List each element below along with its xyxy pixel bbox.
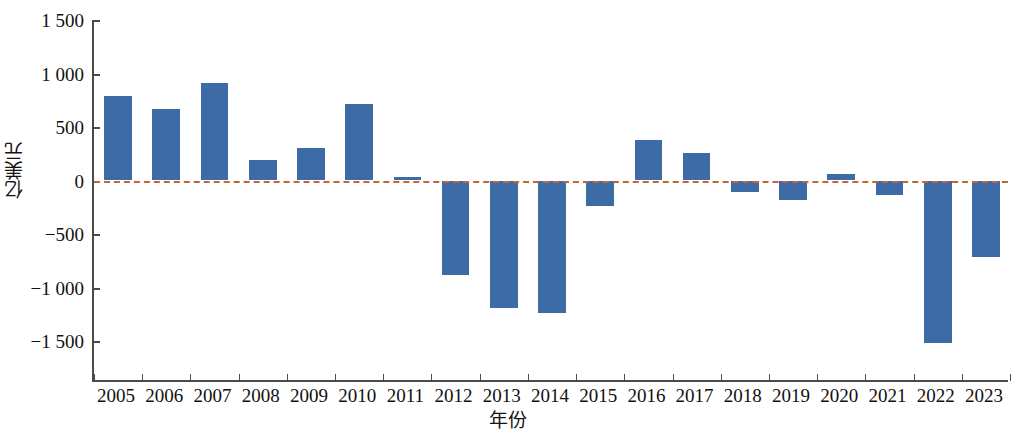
bar — [442, 181, 470, 276]
bar — [249, 160, 277, 180]
bar — [538, 181, 566, 314]
bar — [104, 96, 132, 181]
bar — [779, 181, 807, 201]
y-tick-label: −1 000 — [20, 279, 84, 298]
x-tick-label: 2017 — [671, 384, 719, 408]
x-tick-label: 2011 — [381, 384, 429, 408]
y-tick-label: −1 500 — [20, 332, 84, 351]
bar — [827, 174, 855, 181]
zero-reference-line — [94, 181, 1008, 183]
bar — [876, 181, 904, 196]
bar — [683, 153, 711, 181]
x-tick-label: 2019 — [767, 384, 815, 408]
x-tick-label: 2014 — [526, 384, 574, 408]
x-tick-label: 2012 — [429, 384, 477, 408]
y-axis-tick-labels: 1 5001 0005000−500−1 000−1 500 — [12, 0, 84, 433]
y-tick-label: 0 — [20, 172, 84, 191]
x-tick-label: 2016 — [622, 384, 670, 408]
x-tick-label: 2023 — [960, 384, 1008, 408]
bar — [490, 181, 518, 308]
y-tick-label: 1 500 — [20, 11, 84, 30]
bar — [201, 83, 229, 181]
x-tick-label: 2015 — [574, 384, 622, 408]
bar — [586, 181, 614, 206]
x-tick-label: 2013 — [478, 384, 526, 408]
plot-area — [92, 20, 1008, 382]
bar — [297, 148, 325, 180]
bars-container — [94, 20, 1008, 380]
x-tick-label: 2009 — [285, 384, 333, 408]
bar-chart: 亿美元 1 5001 0005000−500−1 000−1 500 20052… — [0, 0, 1016, 433]
bar — [345, 104, 373, 181]
x-tick-label: 2008 — [237, 384, 285, 408]
x-tick-label: 2022 — [912, 384, 960, 408]
y-tick-label: 1 000 — [20, 65, 84, 84]
bar — [635, 140, 663, 181]
bar — [972, 181, 1000, 258]
x-tick-label: 2020 — [815, 384, 863, 408]
x-tick-label: 2010 — [333, 384, 381, 408]
x-axis-tick-labels: 2005200620072008200920102011201220132014… — [92, 384, 1008, 410]
x-tick-label: 2021 — [863, 384, 911, 408]
x-axis-title: 年份 — [0, 408, 1016, 432]
y-tick-label: −500 — [20, 225, 84, 244]
bar — [152, 109, 180, 181]
x-tick-label: 2005 — [92, 384, 140, 408]
y-tick-label: 500 — [20, 118, 84, 137]
x-tick-mark — [1010, 374, 1011, 381]
x-tick-label: 2006 — [140, 384, 188, 408]
x-tick-label: 2018 — [719, 384, 767, 408]
bar — [924, 181, 952, 343]
x-tick-label: 2007 — [188, 384, 236, 408]
